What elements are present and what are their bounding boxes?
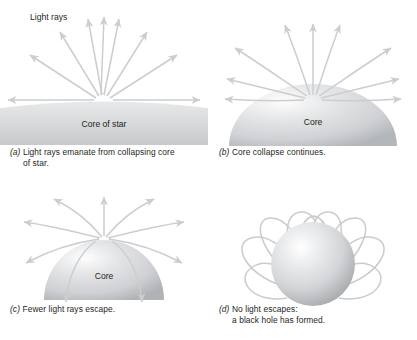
- core-label-b: Core: [209, 117, 417, 127]
- caption-b-letter: (b): [219, 147, 230, 157]
- light-rays-b: [225, 24, 401, 101]
- caption-c: (c) Fewer light rays escape.: [10, 304, 204, 315]
- panel-c-artwork: [0, 170, 208, 340]
- caption-c-line1: Fewer light rays escape.: [22, 304, 115, 314]
- core-label-c: Core: [0, 271, 208, 281]
- caption-b-line1: Core collapse continues.: [232, 147, 326, 157]
- caption-b: (b) Core collapse continues.: [219, 147, 413, 158]
- light-rays-label-a: Light rays: [30, 12, 67, 22]
- caption-a-letter: (a): [10, 147, 21, 157]
- panel-c: Core (c) Fewer light rays escape.: [0, 170, 208, 340]
- caption-a-line2: of star.: [10, 158, 204, 169]
- light-rays-a: [8, 17, 200, 100]
- core-label-a: Core of star: [0, 119, 208, 129]
- black-hole-sphere-d: [271, 222, 355, 306]
- caption-d-letter: (d): [219, 304, 230, 314]
- caption-d-line2: a black hole has formed.: [219, 315, 413, 326]
- caption-d: (d) No light escapes: a black hole has f…: [219, 304, 413, 325]
- black-hole-formation-figure: Light rays Core of star (a) Light rays e…: [0, 0, 417, 340]
- panel-b: Core (b) Core collapse continues.: [209, 0, 417, 170]
- panel-b-artwork: [209, 0, 417, 170]
- panel-a-artwork: [0, 0, 208, 170]
- caption-d-line1: No light escapes:: [232, 304, 298, 314]
- panel-a: Light rays Core of star (a) Light rays e…: [0, 0, 208, 170]
- caption-a: (a) Light rays emanate from collapsing c…: [10, 147, 204, 168]
- core-shape-c: [44, 240, 164, 300]
- panel-d: (d) No light escapes: a black hole has f…: [209, 170, 417, 340]
- caption-c-letter: (c): [10, 304, 20, 314]
- caption-a-line1: Light rays emanate from collapsing core: [23, 147, 175, 157]
